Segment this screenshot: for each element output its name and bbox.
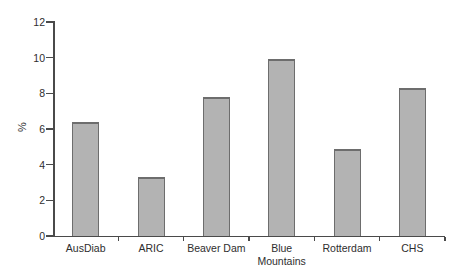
x-category-label-line: Mountains (240, 255, 324, 268)
y-tick-label: 4 (18, 160, 45, 170)
x-tick-mark (444, 237, 446, 241)
bar-chart-figure: % 024681012 AusDiabARICBeaver DamBlueMou… (0, 0, 464, 277)
bar-chs (399, 88, 426, 236)
x-tick-mark (379, 237, 381, 241)
y-tick-mark (46, 164, 53, 166)
y-tick-mark (46, 93, 53, 95)
bar-ausdiab (72, 122, 99, 236)
x-category-label: CHS (370, 242, 454, 255)
y-tick-mark (46, 128, 53, 130)
y-tick-mark (46, 57, 53, 59)
y-tick-mark (46, 200, 53, 202)
y-tick-mark (46, 235, 53, 237)
y-tick-mark (46, 21, 53, 23)
y-tick-label: 8 (18, 88, 45, 98)
y-tick-label: 2 (18, 195, 45, 205)
y-tick-label: 6 (18, 124, 45, 134)
y-tick-label: 0 (18, 231, 45, 241)
bar-beaver-dam (203, 97, 230, 236)
bar-rotterdam (334, 149, 361, 236)
x-tick-mark (314, 237, 316, 241)
x-category-label-line: CHS (370, 242, 454, 255)
bar-blue-mountains (268, 59, 295, 236)
y-tick-label: 10 (18, 53, 45, 63)
y-axis-line (53, 21, 55, 237)
x-tick-mark (183, 237, 185, 241)
x-tick-mark (248, 237, 250, 241)
y-tick-label: 12 (18, 17, 45, 27)
x-tick-mark (118, 237, 120, 241)
bar-aric (138, 177, 165, 236)
